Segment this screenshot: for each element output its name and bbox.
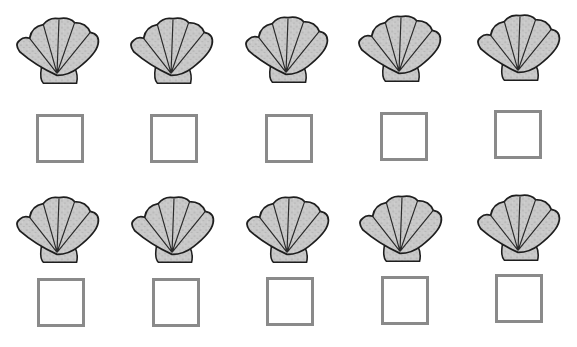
answer-box-r2-c1[interactable]	[37, 278, 85, 327]
answer-box-r2-c5[interactable]	[495, 274, 543, 323]
scallop-shell-icon	[356, 12, 444, 84]
answer-box-r2-c4[interactable]	[381, 276, 429, 325]
scallop-shell-icon	[14, 14, 102, 86]
answer-box-r1-c5[interactable]	[494, 110, 542, 159]
scallop-shell-icon	[14, 193, 102, 265]
scallop-shell-icon	[475, 191, 563, 263]
answer-box-r1-c1[interactable]	[36, 114, 84, 163]
scallop-shell-icon	[243, 13, 331, 85]
scallop-shell-icon	[357, 192, 445, 264]
answer-box-r2-c2[interactable]	[152, 278, 200, 327]
scallop-shell-icon	[475, 11, 563, 83]
scallop-shell-icon	[244, 193, 332, 265]
answer-box-r1-c3[interactable]	[265, 114, 313, 163]
scallop-shell-icon	[129, 193, 217, 265]
answer-box-r1-c2[interactable]	[150, 114, 198, 163]
answer-box-r1-c4[interactable]	[380, 112, 428, 161]
answer-box-r2-c3[interactable]	[266, 277, 314, 326]
scallop-shell-icon	[128, 14, 216, 86]
